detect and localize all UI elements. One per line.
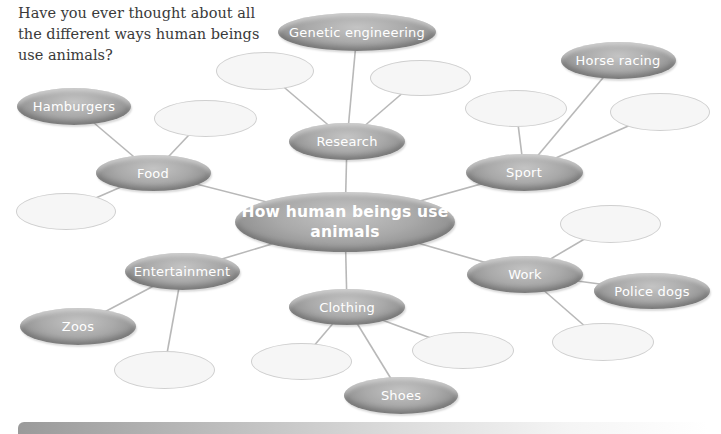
topic-node-work: Work (467, 256, 583, 293)
empty-answer-bubble[interactable] (16, 193, 116, 230)
empty-answer-bubble[interactable] (154, 100, 257, 137)
empty-answer-bubble[interactable] (370, 60, 471, 96)
empty-answer-bubble[interactable] (465, 90, 567, 127)
topic-node-entertainment: Entertainment (125, 253, 240, 290)
empty-answer-bubble[interactable] (610, 93, 710, 131)
empty-answer-bubble[interactable] (251, 343, 352, 380)
empty-answer-bubble[interactable] (114, 351, 215, 389)
topic-node-genetic: Genetic engineering (278, 13, 436, 51)
central-topic-node: How human beings use animals (235, 192, 455, 252)
topic-node-shoes: Shoes (344, 377, 458, 414)
topic-node-sport: Sport (466, 154, 583, 191)
empty-answer-bubble[interactable] (412, 332, 514, 369)
topic-node-police: Police dogs (594, 273, 710, 309)
topic-node-food: Food (96, 155, 211, 191)
topic-node-horse: Horse racing (561, 42, 676, 79)
empty-answer-bubble[interactable] (216, 52, 314, 90)
empty-answer-bubble[interactable] (552, 323, 654, 361)
topic-node-clothing: Clothing (289, 289, 405, 325)
topic-node-hamburgers: Hamburgers (17, 88, 131, 125)
topic-node-research: Research (289, 123, 405, 160)
empty-answer-bubble[interactable] (560, 205, 661, 243)
decorative-bottom-bar (18, 422, 708, 434)
topic-node-zoos: Zoos (20, 308, 136, 345)
